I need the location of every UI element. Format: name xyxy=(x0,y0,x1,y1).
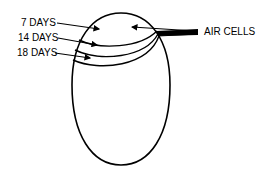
label-14-days: 14 DAYS xyxy=(18,32,59,43)
arrow-14-days xyxy=(58,38,97,45)
label-7-days: 7 DAYS xyxy=(21,17,56,28)
egg-outline xyxy=(72,13,170,165)
label-18-days: 18 DAYS xyxy=(17,47,58,58)
air-cell-18-days xyxy=(73,36,159,66)
label-air-cells: AIR CELLS xyxy=(204,26,255,37)
egg-air-cell-diagram: 7 DAYS 14 DAYS 18 DAYS AIR CELLS xyxy=(0,0,265,175)
